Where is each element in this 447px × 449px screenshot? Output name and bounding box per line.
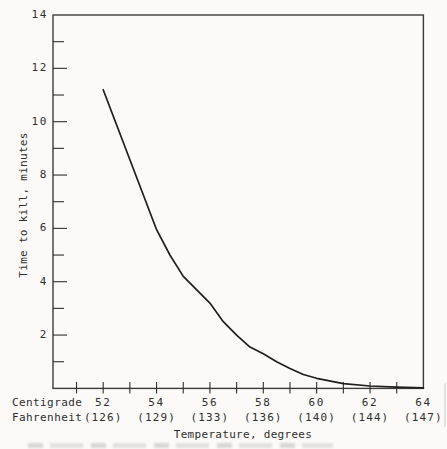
scan-edge-artifact [444,383,446,427]
y-tick-label: 14 [32,8,48,22]
time-to-kill-curve [103,90,423,388]
centigrade-row-label: Centigrade [12,396,82,410]
y-tick-label: 12 [32,61,48,75]
plot-canvas [0,0,447,449]
cropped-caption-artifact [28,443,333,448]
fahrenheit-tick-label: (147) [391,411,447,425]
y-tick-label: 6 [40,221,48,235]
centigrade-tick-label: 64 [391,396,447,410]
y-axis-title: Time to kill, minutes [17,132,31,277]
y-tick-label: 2 [40,328,48,342]
y-tick-label: 10 [32,115,48,129]
x-axis-title: Temperature, degrees [150,428,336,442]
figure: 2468101214 52545658606264 (126)(129)(133… [0,0,447,449]
plot-border [53,15,423,388]
y-tick-label: 8 [40,168,48,182]
y-tick-label: 4 [40,275,48,289]
fahrenheit-row-label: Fahrenheit [12,411,82,425]
